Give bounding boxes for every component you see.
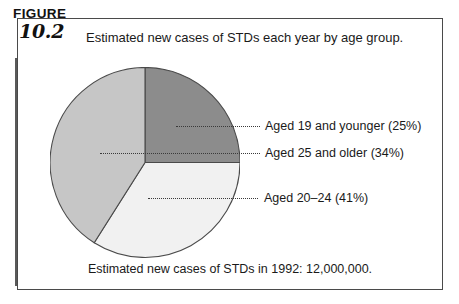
pie-label-aged-20-24: Aged 20–24 (41%) <box>264 191 368 205</box>
figure-title: Estimated new cases of STDs each year by… <box>86 30 426 46</box>
leader-line-aged-20-24 <box>148 198 258 199</box>
vertical-accent-bar <box>15 58 17 286</box>
pie-chart <box>50 67 240 258</box>
pie-chart-svg <box>50 67 240 258</box>
figure-number: 10.2 <box>19 21 83 41</box>
figure-label: FIGURE <box>13 7 83 21</box>
pie-label-aged-25-and-older: Aged 25 and older (34%) <box>265 146 404 160</box>
pie-label-aged-19-and-younger: Aged 19 and younger (25%) <box>265 119 421 133</box>
figure-caption: FIGURE 10.2 <box>13 7 83 41</box>
pie-slice-aged-19-and-younger <box>145 68 240 163</box>
leader-line-aged-25-and-older <box>100 153 260 154</box>
figure-container: FIGURE 10.2 Estimated new cases of STDs … <box>0 0 459 304</box>
leader-line-aged-19-and-younger <box>176 126 260 127</box>
figure-footnote: Estimated new cases of STDs in 1992: 12,… <box>17 262 443 277</box>
